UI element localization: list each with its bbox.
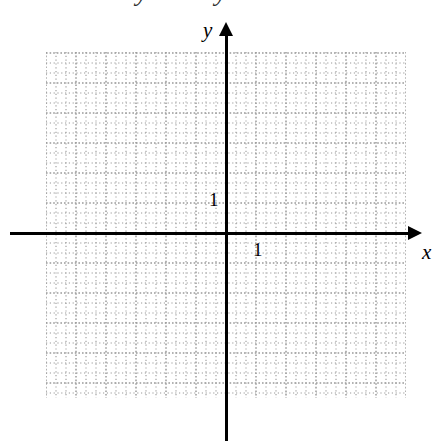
y-axis-arrowhead-icon	[219, 22, 233, 36]
y-axis-label: y	[203, 20, 212, 41]
clipped-glyph-left: y	[136, 0, 148, 6]
clipped-glyph-right: y	[215, 0, 227, 6]
clipped-text-remnant-row: y y	[0, 0, 442, 13]
x-axis-line	[10, 232, 408, 235]
y-axis-tick-label-1: 1	[209, 190, 219, 209]
x-axis-tick-label-1: 1	[253, 240, 263, 259]
x-axis-arrowhead-icon	[408, 226, 422, 240]
x-axis-label: x	[422, 242, 431, 263]
y-axis-line	[225, 36, 228, 441]
coordinate-plane-figure: y y x y 1 1	[0, 0, 442, 445]
